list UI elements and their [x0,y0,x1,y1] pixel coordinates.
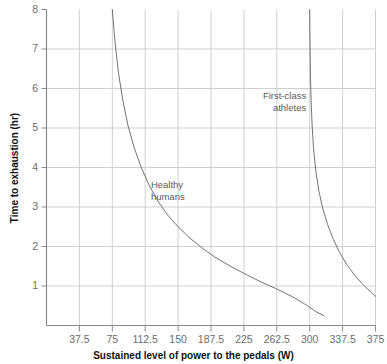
annotation-line-1: First-class [246,90,306,102]
series-line-healthy-humans [112,10,323,316]
x-axis-title: Sustained level of power to the pedals (… [0,350,387,361]
y-tick-label: 2 [10,240,38,252]
x-tick-marks [79,326,375,332]
series-annotation-first-class-athletes: First-class athletes [246,90,306,113]
annotation-line-2: humans [151,191,185,203]
y-tick-label: 6 [10,82,38,94]
x-tick-label: 375 [353,333,387,345]
y-axis-title: Time to exhaustion (hr) [9,112,20,222]
chart-plot-area [0,0,387,364]
y-tick-label: 8 [10,3,38,15]
series-annotation-healthy-humans: Healthy humans [151,179,185,202]
chart-container: 12345678 37.575112.5150187.5225262.53003… [0,0,387,364]
annotation-line-1: Healthy [151,179,185,191]
y-tick-label: 1 [10,279,38,291]
annotation-line-2: athletes [246,102,306,114]
y-tick-marks [42,10,47,287]
y-tick-label: 7 [10,42,38,54]
